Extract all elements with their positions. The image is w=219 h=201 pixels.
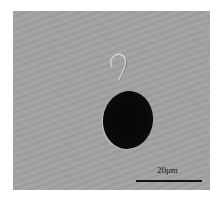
micrograph bbox=[13, 11, 210, 190]
scale-bar bbox=[136, 180, 202, 182]
scale-bar-label: 20μm bbox=[157, 165, 178, 175]
